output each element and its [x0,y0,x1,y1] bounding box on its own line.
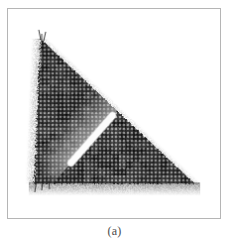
image-frame [7,8,221,219]
figure-caption-label: (a) [0,224,229,238]
mesh-simulation-image [8,9,220,218]
figure-panel: (a) [0,0,229,247]
